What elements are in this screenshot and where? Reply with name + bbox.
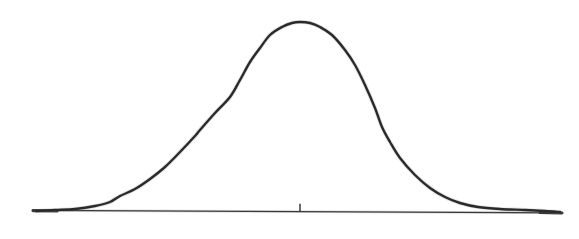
bell-curve-figure bbox=[0, 0, 579, 239]
chart-background bbox=[0, 0, 579, 239]
normal-distribution-chart bbox=[0, 0, 579, 239]
